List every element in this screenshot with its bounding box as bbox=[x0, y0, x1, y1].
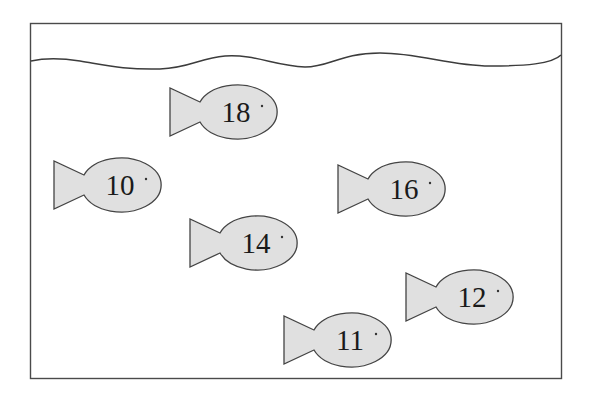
fish-number-label: 18 bbox=[222, 96, 251, 128]
fish-number-label: 14 bbox=[242, 227, 272, 259]
fish-eye-icon bbox=[145, 178, 147, 180]
fish-16: 16 bbox=[338, 162, 445, 216]
fish-12: 12 bbox=[406, 270, 513, 324]
fish-number-label: 16 bbox=[390, 173, 419, 205]
fish-11: 11 bbox=[284, 313, 391, 367]
fish-eye-icon bbox=[261, 105, 263, 107]
fish-number-label: 12 bbox=[458, 281, 487, 313]
fish-number-label: 11 bbox=[336, 324, 364, 356]
fish-eye-icon bbox=[281, 236, 283, 238]
fish-14: 14 bbox=[190, 216, 297, 270]
fish-eye-icon bbox=[429, 182, 431, 184]
fish-10: 10 bbox=[54, 158, 161, 212]
fish-number-label: 10 bbox=[106, 169, 135, 201]
fish-tank-diagram: 18 10 16 14 12 11 bbox=[0, 0, 592, 401]
water-surface-line bbox=[31, 53, 561, 69]
fish-eye-icon bbox=[497, 290, 499, 292]
fish-eye-icon bbox=[375, 333, 377, 335]
fish-18: 18 bbox=[170, 85, 277, 139]
